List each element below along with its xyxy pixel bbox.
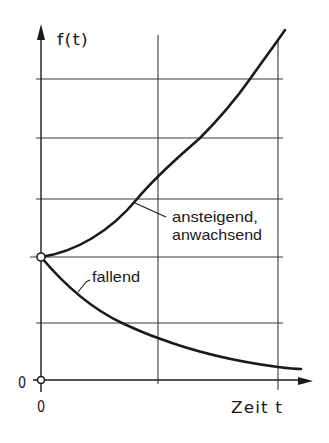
rising-curve-label-line1: ansteigend, bbox=[172, 208, 258, 225]
falling-curve-label: fallend bbox=[92, 268, 140, 285]
x-origin-label: 0 bbox=[37, 398, 46, 416]
y-axis-arrow-icon bbox=[37, 24, 45, 40]
growth-decay-diagram: f(t) Zeit t 0 0 ansteigend, anwachsend f… bbox=[0, 0, 329, 443]
falling-curve bbox=[41, 257, 301, 369]
rising-curve-label-line2: anwachsend bbox=[172, 226, 262, 243]
x-axis-arrow-icon bbox=[298, 377, 313, 385]
y-origin-label: 0 bbox=[18, 374, 27, 392]
rising-label-leader bbox=[135, 203, 166, 217]
start-point-marker bbox=[37, 253, 45, 261]
x-axis-label: Zeit t bbox=[231, 399, 283, 417]
y-axis-label: f(t) bbox=[57, 31, 89, 49]
x-axis bbox=[33, 377, 313, 385]
falling-label-leader bbox=[78, 282, 86, 292]
origin-marker bbox=[38, 377, 45, 384]
